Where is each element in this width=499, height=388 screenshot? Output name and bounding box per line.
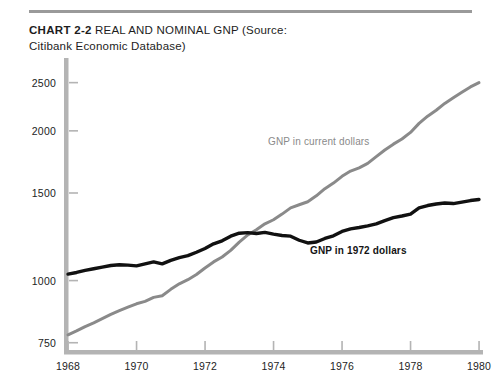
chart-svg bbox=[0, 0, 499, 388]
y-tick-label: 2500 bbox=[14, 77, 56, 89]
y-tick-label: 2000 bbox=[14, 125, 56, 137]
x-tick bbox=[410, 341, 412, 350]
line-real-gnp bbox=[68, 200, 479, 275]
x-tick bbox=[478, 341, 480, 350]
x-tick-label: 1974 bbox=[251, 360, 297, 372]
series-group bbox=[68, 83, 479, 335]
x-tick-label: 1976 bbox=[319, 360, 365, 372]
y-tick bbox=[69, 192, 78, 194]
y-tick-label: 1500 bbox=[14, 187, 56, 199]
y-tick bbox=[69, 342, 78, 344]
x-tick bbox=[67, 341, 69, 350]
series-label-nominal: GNP in current dollars bbox=[268, 136, 370, 147]
x-tick-label: 1972 bbox=[182, 360, 228, 372]
x-tick bbox=[136, 341, 138, 350]
plot-area: Billions of dollars 7501000150020002500 … bbox=[0, 0, 499, 388]
y-tick-label: 1000 bbox=[14, 275, 56, 287]
y-tick-label: 750 bbox=[14, 337, 56, 349]
x-tick-label: 1980 bbox=[456, 360, 499, 372]
y-tick bbox=[69, 130, 78, 132]
series-label-real: GNP in 1972 dollars bbox=[310, 245, 407, 256]
x-tick bbox=[341, 341, 343, 350]
x-tick-label: 1978 bbox=[388, 360, 434, 372]
x-axis-line bbox=[64, 350, 483, 355]
y-tick bbox=[69, 280, 78, 282]
y-tick bbox=[69, 82, 78, 84]
x-tick-label: 1970 bbox=[114, 360, 160, 372]
x-tick-label: 1968 bbox=[45, 360, 91, 372]
x-tick bbox=[273, 341, 275, 350]
chart-page: CHART 2-2 REAL AND NOMINAL GNP (Source: … bbox=[0, 0, 499, 388]
x-tick bbox=[204, 341, 206, 350]
y-axis-line bbox=[64, 58, 69, 354]
